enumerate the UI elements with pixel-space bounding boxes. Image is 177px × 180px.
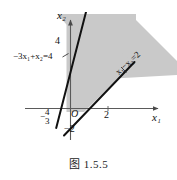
fraction-four-thirds: 4 3 [45, 108, 50, 125]
fraction-denominator: 3 [45, 117, 50, 126]
origin-label: O [71, 109, 78, 119]
tick-label-y-neg-two: −2 [64, 124, 75, 134]
x1-axis-label: x₁ [152, 112, 161, 123]
figure-container: x₁ x₂ 4 2 −2 − 4 3 O −3x₁+x₂=4 x₁−x₂=2 图… [0, 0, 177, 180]
figure-caption: 图 1.5.5 [0, 155, 177, 171]
tick-label-x-two: 2 [104, 110, 109, 120]
x2-axis-label: x₂ [57, 10, 66, 21]
coordinate-plot [0, 0, 177, 160]
equation-label-neg3x1-plus-x2: −3x₁+x₂=4 [13, 52, 53, 61]
tick-label-x-neg-four-thirds: − 4 3 [40, 108, 50, 125]
tick-label-y-four: 4 [55, 36, 60, 46]
